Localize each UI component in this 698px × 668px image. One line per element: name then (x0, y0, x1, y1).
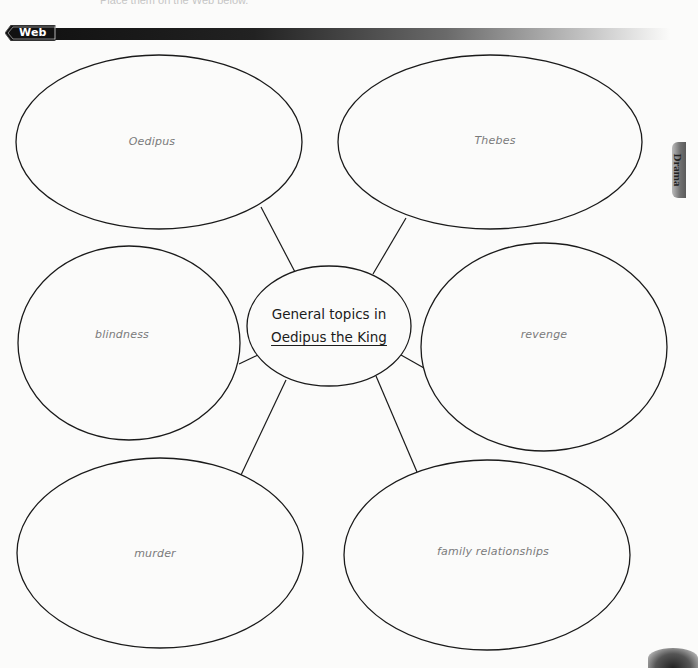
connector-thebes (373, 218, 406, 274)
node-label-revenge: revenge (521, 328, 568, 341)
node-label-oedipus: Oedipus (129, 135, 176, 148)
node-label-family-relationships: family relationships (437, 545, 549, 558)
center-topic-line1: General topics in (271, 303, 387, 326)
connector-revenge (401, 355, 424, 368)
connector-oedipus (261, 207, 295, 272)
node-blindness (18, 246, 240, 440)
connector-murder (241, 380, 286, 475)
node-revenge (421, 243, 667, 451)
connector-family-relationships (376, 376, 417, 472)
node-label-thebes: Thebes (474, 134, 515, 147)
center-topic-label: General topics in Oedipus the King (271, 303, 387, 349)
node-label-blindness: blindness (95, 328, 149, 341)
node-label-murder: murder (134, 547, 176, 560)
center-topic-title: Oedipus the King (271, 326, 387, 349)
page-corner-mark (648, 648, 698, 668)
connector-blindness (239, 355, 258, 364)
